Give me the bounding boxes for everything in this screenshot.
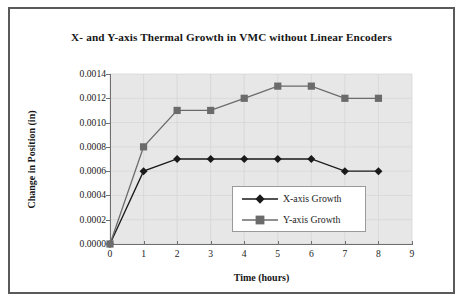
x-axis-tick-label: 2 bbox=[165, 249, 189, 259]
y-axis-tick-mark bbox=[106, 147, 111, 148]
x-axis-tick-mark bbox=[244, 241, 245, 245]
data-point-marker bbox=[308, 83, 315, 90]
y-axis-tick-mark bbox=[106, 98, 111, 99]
legend-label-x-axis-growth: X-axis Growth bbox=[283, 193, 342, 204]
figure-frame: X- and Y-axis Thermal Growth in VMC with… bbox=[8, 7, 455, 294]
data-point-marker bbox=[140, 167, 148, 175]
data-point-marker bbox=[274, 83, 281, 90]
legend-item-y-axis-growth[interactable]: Y-axis Growth bbox=[233, 209, 365, 230]
data-point-marker bbox=[274, 155, 282, 163]
data-point-marker bbox=[375, 95, 382, 102]
x-axis-tick-mark bbox=[311, 241, 312, 245]
x-axis-tick-mark bbox=[278, 241, 279, 245]
x-axis-tick-label: 1 bbox=[132, 249, 156, 259]
y-axis-tick-label: 0.0000 bbox=[58, 239, 106, 249]
x-axis-tick-label: 5 bbox=[266, 249, 290, 259]
y-axis-tick-mark bbox=[106, 74, 111, 75]
data-point-marker bbox=[374, 167, 382, 175]
y-axis-tick-mark bbox=[106, 123, 111, 124]
y-axis-tick-mark bbox=[106, 220, 111, 221]
data-point-marker bbox=[174, 107, 181, 114]
x-axis-tick-labels: 0123456789 bbox=[10, 249, 465, 265]
data-point-marker bbox=[240, 155, 248, 163]
y-axis-tick-label: 0.0008 bbox=[58, 142, 106, 152]
legend-label-y-axis-growth: Y-axis Growth bbox=[283, 214, 340, 225]
y-axis-tick-label: 0.0004 bbox=[58, 190, 106, 200]
y-axis-tick-label: 0.0012 bbox=[58, 93, 106, 103]
x-axis-tick-mark bbox=[110, 241, 111, 245]
data-point-marker bbox=[341, 95, 348, 102]
data-point-marker bbox=[173, 155, 181, 163]
x-axis-title: Time (hours) bbox=[110, 272, 413, 283]
legend-item-x-axis-growth[interactable]: X-axis Growth bbox=[233, 188, 365, 209]
x-axis-line bbox=[110, 244, 413, 245]
y-axis-title: Change in Position (in) bbox=[26, 100, 37, 220]
y-axis-tick-mark bbox=[106, 195, 111, 196]
data-point-marker bbox=[307, 155, 315, 163]
y-axis-tick-label: 0.0002 bbox=[58, 215, 106, 225]
data-point-marker bbox=[207, 155, 215, 163]
x-axis-tick-label: 9 bbox=[400, 249, 424, 259]
x-axis-tick-label: 6 bbox=[299, 249, 323, 259]
x-axis-tick-mark bbox=[412, 241, 413, 245]
x-axis-tick-mark bbox=[345, 241, 346, 245]
x-axis-tick-mark bbox=[211, 241, 212, 245]
data-point-marker bbox=[241, 95, 248, 102]
x-axis-tick-label: 4 bbox=[232, 249, 256, 259]
legend-marker-square-icon bbox=[240, 212, 280, 228]
data-point-marker bbox=[140, 143, 147, 150]
x-axis-tick-mark bbox=[177, 241, 178, 245]
y-axis-tick-label: 0.0006 bbox=[58, 166, 106, 176]
data-point-marker bbox=[341, 167, 349, 175]
x-axis-tick-label: 0 bbox=[98, 249, 122, 259]
data-point-marker bbox=[207, 107, 214, 114]
x-axis-tick-label: 8 bbox=[366, 249, 390, 259]
x-axis-tick-label: 7 bbox=[333, 249, 357, 259]
x-axis-tick-label: 3 bbox=[199, 249, 223, 259]
x-axis-tick-mark bbox=[144, 241, 145, 245]
x-axis-tick-mark bbox=[378, 241, 379, 245]
y-axis-tick-mark bbox=[106, 171, 111, 172]
y-axis-tick-label: 0.0010 bbox=[58, 118, 106, 128]
legend-marker-diamond-icon bbox=[240, 191, 280, 207]
y-axis-tick-label: 0.0014 bbox=[58, 69, 106, 79]
legend: X-axis Growth Y-axis Growth bbox=[232, 186, 366, 232]
